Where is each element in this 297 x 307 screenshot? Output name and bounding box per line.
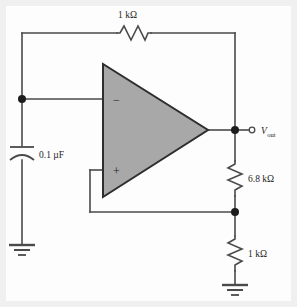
input-capacitor-label: 0.1 µF bbox=[39, 150, 64, 160]
lower-divider-resistor-symbol bbox=[228, 236, 242, 271]
feedback-resistor-label: 1 kΩ bbox=[118, 10, 137, 20]
ground-divider-icon bbox=[222, 285, 248, 295]
upper-divider-resistor-symbol bbox=[228, 161, 242, 196]
ground-input-icon bbox=[9, 245, 35, 255]
circuit-schematic: − + 1 kΩ 0.1 µF 6.8 kΩ 1 kΩ bbox=[0, 0, 297, 307]
resistor-zigzag-icon bbox=[117, 26, 151, 40]
resistor-zigzag-icon bbox=[228, 161, 242, 196]
resistor-zigzag-icon bbox=[228, 236, 242, 271]
output-terminal-label: Vout bbox=[261, 126, 276, 138]
circuit-figure: − + 1 kΩ 0.1 µF 6.8 kΩ 1 kΩ bbox=[0, 0, 297, 307]
input-capacitor-symbol bbox=[10, 147, 34, 160]
opamp-noninverting-sign: + bbox=[113, 164, 120, 178]
lower-divider-resistor-label: 1 kΩ bbox=[248, 249, 267, 259]
node-output-dot bbox=[231, 126, 239, 134]
output-terminal-open-circle-icon bbox=[249, 127, 255, 133]
node-inverting-input-dot bbox=[18, 95, 26, 103]
upper-divider-resistor-label: 6.8 kΩ bbox=[248, 174, 274, 184]
feedback-resistor-symbol bbox=[117, 26, 151, 40]
output-symbol-subscript: out bbox=[267, 131, 276, 138]
node-divider-tap-dot bbox=[231, 208, 239, 216]
opamp-inverting-sign: − bbox=[113, 93, 120, 107]
